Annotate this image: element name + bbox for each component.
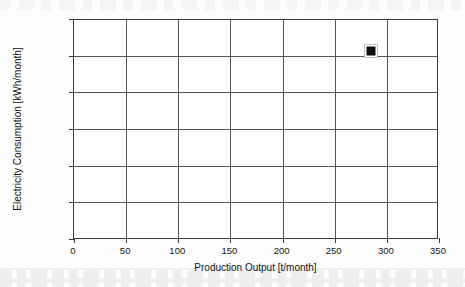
x-tick-label: 100 bbox=[169, 245, 185, 256]
y-tick-mark bbox=[69, 202, 74, 203]
scan-artifact-top bbox=[0, 0, 465, 10]
x-tick-label: 150 bbox=[221, 245, 237, 256]
x-tick-label: 350 bbox=[430, 245, 446, 256]
x-tick-mark bbox=[74, 238, 75, 243]
data-point-marker bbox=[365, 44, 378, 57]
x-tick-mark bbox=[283, 238, 284, 243]
x-tick-label: 300 bbox=[378, 245, 394, 256]
y-tick-mark bbox=[69, 92, 74, 93]
gridline-horizontal bbox=[74, 129, 438, 130]
x-tick-label: 200 bbox=[274, 245, 290, 256]
plot-top-border bbox=[74, 19, 438, 20]
x-tick-mark bbox=[230, 238, 231, 243]
gridline-horizontal bbox=[74, 166, 438, 167]
gridline-horizontal bbox=[74, 56, 438, 57]
x-tick-mark bbox=[335, 238, 336, 243]
x-tick-label: 0 bbox=[70, 245, 75, 256]
x-tick-mark bbox=[387, 238, 388, 243]
x-tick-mark bbox=[439, 238, 440, 243]
y-axis-title: Electricity Consumption [kWh/month] bbox=[12, 47, 23, 210]
gridline-horizontal bbox=[74, 202, 438, 203]
x-tick-mark bbox=[126, 238, 127, 243]
y-tick-mark bbox=[69, 56, 74, 57]
x-tick-mark bbox=[178, 238, 179, 243]
x-tick-label: 50 bbox=[120, 245, 131, 256]
y-axis-title-wrapper: Electricity Consumption [kWh/month] bbox=[9, 19, 25, 239]
x-tick-label: 250 bbox=[326, 245, 342, 256]
y-tick-mark bbox=[69, 19, 74, 20]
y-tick-mark bbox=[69, 239, 74, 240]
x-axis-title: Production Output [t/month] bbox=[73, 262, 438, 273]
y-tick-mark bbox=[69, 129, 74, 130]
gridline-horizontal bbox=[74, 92, 438, 93]
scatter-chart-figure: 050100150200250300350 0500010 00015 0002… bbox=[0, 0, 465, 287]
plot-area bbox=[73, 19, 438, 239]
y-tick-mark bbox=[69, 166, 74, 167]
